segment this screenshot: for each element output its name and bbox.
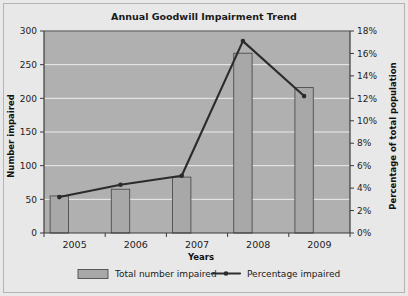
y2-tick-label: 18% [357, 26, 377, 36]
bar-2006 [111, 189, 129, 233]
y-tick-label: 200 [20, 94, 37, 104]
y-tick-label: 300 [20, 26, 37, 36]
point-2008 [241, 39, 246, 44]
x-tick-label: 2009 [307, 239, 331, 250]
point-2006 [118, 182, 123, 187]
point-2005 [57, 195, 62, 200]
chart-canvas: 0501001502002503000%2%4%6%8%10%12%14%16%… [0, 0, 408, 296]
legend-swatch-bar [78, 270, 108, 279]
y2-tick-label: 4% [357, 183, 372, 193]
y2-tick-label: 12% [357, 94, 377, 104]
y2-tick-label: 16% [357, 49, 377, 59]
legend-label-line: Percentage impaired [247, 269, 340, 279]
y2-tick-label: 10% [357, 116, 377, 126]
y-tick-label: 100 [20, 161, 37, 171]
y-tick-label: 250 [20, 60, 37, 70]
legend-line-marker [224, 271, 229, 276]
y2-tick-label: 2% [357, 206, 372, 216]
bar-2009 [295, 88, 313, 233]
y2-tick-label: 0% [357, 228, 372, 238]
y2-axis-title: Percentage of total population [388, 62, 398, 209]
y-tick-label: 0 [31, 228, 37, 238]
x-tick-label: 2006 [124, 239, 148, 250]
y2-tick-label: 8% [357, 138, 372, 148]
y-axis-title: Number impaired [6, 94, 16, 178]
chart-figure: 0501001502002503000%2%4%6%8%10%12%14%16%… [0, 0, 408, 296]
y-tick-label: 150 [20, 127, 37, 137]
x-tick-label: 2008 [246, 239, 270, 250]
point-2009 [302, 94, 307, 99]
bar-2008 [234, 53, 252, 233]
point-2007 [179, 173, 184, 178]
chart-title: Annual Goodwill Impairment Trend [111, 11, 297, 22]
x-tick-label: 2007 [185, 239, 209, 250]
bar-2005 [50, 196, 68, 233]
bar-2007 [173, 177, 191, 233]
y2-tick-label: 14% [357, 71, 377, 81]
x-axis-title: Years [187, 252, 214, 262]
x-tick-label: 2005 [63, 239, 87, 250]
chart-legend: Total number impairedPercentage impaired [78, 269, 340, 279]
legend-label-bar: Total number impaired [114, 269, 217, 279]
y2-tick-label: 6% [357, 161, 372, 171]
y-tick-label: 50 [26, 195, 38, 205]
